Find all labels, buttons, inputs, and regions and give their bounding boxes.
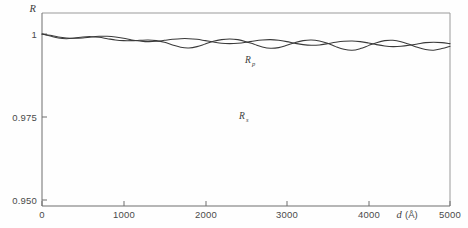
curve-label-rp-sub: p [251,60,256,67]
x-tick-label-1000: 1000 [113,209,135,220]
x-tick-label-4000: 4000 [358,209,380,220]
curve-label-rs-sub: s [246,116,249,123]
curve-label-rp-base: R [244,55,251,65]
x-axis-title-symbol: d [396,209,402,220]
y-tick-label-0950: 0.950 [12,195,37,206]
plot-svg: 1 0.975 0.950 0 1000 2000 3000 4000 5000… [0,0,468,228]
curve-label-rs: R s [238,111,249,123]
x-axis-title-unit: (Å) [405,209,418,220]
curve-label-rs-base: R [238,111,245,121]
y-axis-title: R [29,3,37,14]
curve-label-rp: R p [244,55,256,67]
x-tick-label-5000: 5000 [439,209,461,220]
y-tick-label-1: 1 [32,29,37,40]
reflectance-chart-figure: 1 0.975 0.950 0 1000 2000 3000 4000 5000… [0,0,468,228]
y-tick-label-0975: 0.975 [12,112,37,123]
x-tick-label-2000: 2000 [195,209,217,220]
x-tick-label-0: 0 [39,209,44,220]
x-tick-label-3000: 3000 [276,209,298,220]
